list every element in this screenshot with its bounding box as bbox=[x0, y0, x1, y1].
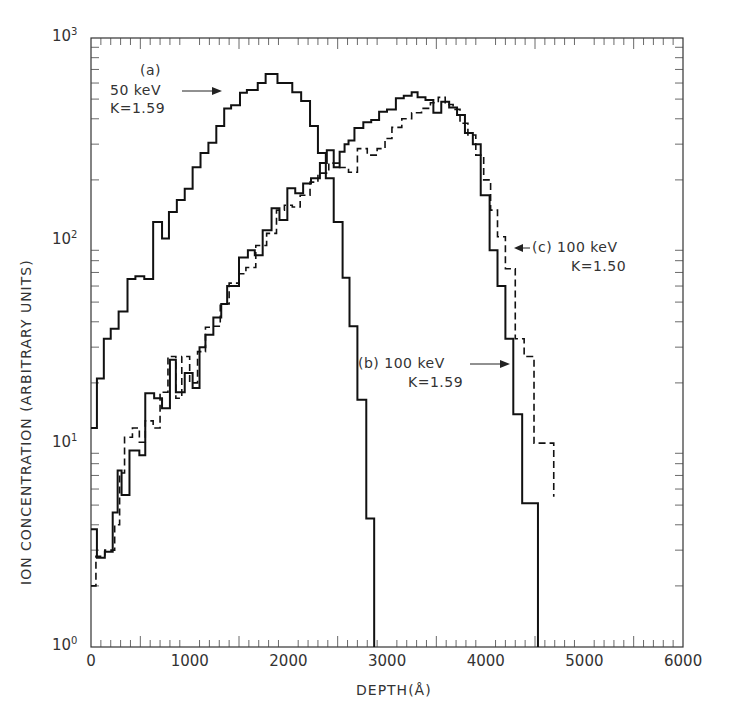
x-tick-label: 1000 bbox=[171, 652, 209, 670]
x-tick-label: 0 bbox=[86, 652, 96, 670]
x-tick-label: 2000 bbox=[269, 652, 307, 670]
y-tick-label: 102 bbox=[52, 229, 77, 248]
data-series bbox=[91, 74, 554, 647]
arrow-c-head-icon bbox=[514, 244, 523, 252]
annotation-b-label: (b) 100 keV bbox=[358, 355, 445, 371]
annotation-c-k: K=1.50 bbox=[571, 258, 626, 274]
arrow-a-head-icon bbox=[212, 87, 222, 95]
axis-ticks bbox=[91, 38, 683, 647]
series-a-line bbox=[91, 74, 374, 647]
plot-frame bbox=[91, 38, 683, 647]
arrow-b-head-icon bbox=[500, 360, 510, 368]
y-tick-label: 103 bbox=[52, 26, 77, 45]
series-b-line bbox=[91, 92, 538, 647]
x-tick-label: 3000 bbox=[368, 652, 406, 670]
x-tick-label: 4000 bbox=[467, 652, 505, 670]
y-axis-label: ION CONCENTRATION (ARBITRARY UNITS) bbox=[18, 259, 34, 585]
x-axis-label: DEPTH(Å) bbox=[356, 682, 432, 698]
annotation-a-energy: 50 keV bbox=[110, 82, 161, 98]
y-tick-label: 101 bbox=[52, 432, 77, 451]
x-tick-label: 6000 bbox=[664, 652, 702, 670]
x-tick-label: 5000 bbox=[565, 652, 603, 670]
plot-border bbox=[91, 38, 683, 647]
annotation-b-k: K=1.59 bbox=[408, 374, 463, 390]
annotation-a-label: (a) bbox=[140, 62, 161, 78]
annotation-c-label: (c) 100 keV bbox=[532, 239, 618, 255]
y-tick-label: 100 bbox=[52, 635, 77, 654]
series-c-line bbox=[91, 97, 554, 586]
annotation-a-k: K=1.59 bbox=[110, 100, 165, 116]
